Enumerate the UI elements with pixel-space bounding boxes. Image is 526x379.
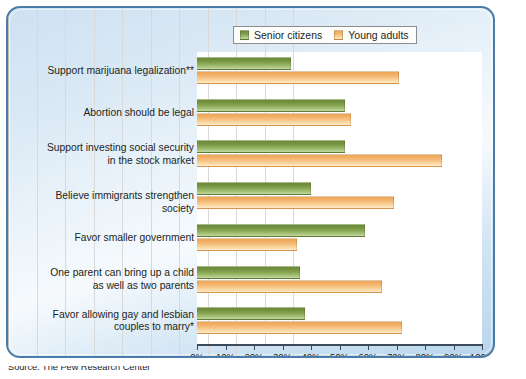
x-axis-tick-label: 10% [216,351,235,358]
figure-root: Senior citizens Young adults Support mar… [0,0,526,379]
bar-young-adults [197,154,442,167]
category-label: Believe immigrants strengthen society [22,190,194,215]
bar-young-adults [197,238,297,251]
bar-young-adults [197,196,394,209]
bar-young-adults [197,113,351,126]
category-labels: Support marijuana legalization**Abortion… [22,52,194,344]
bar-young-adults [197,280,382,293]
x-axis-tick [311,345,312,350]
x-axis-tick [397,345,398,350]
x-axis-tick-label: 70% [387,351,406,358]
x-axis-tick [283,345,284,350]
category-label-line: One parent can bring up a child [22,267,194,279]
figure-source-caption-text: Source: The Pew Research Center [8,366,488,372]
grid-line [8,8,9,356]
bar-group [197,52,482,94]
bar-senior-citizens [197,182,311,195]
x-axis-tick-label: 40% [301,351,320,358]
bar-group [197,135,482,177]
x-axis-tick-labels: 0%10%20%30%40%50%60%70%80%90%100% [8,351,495,358]
bar-group [197,177,482,219]
bar-group [197,261,482,303]
bar-group [197,302,482,344]
x-axis-tick-label: 20% [244,351,263,358]
legend-entry-senior-citizens: Senior citizens [240,30,322,41]
bar-young-adults [197,321,402,334]
category-label: Favor allowing gay and lesbiancouples to… [22,309,194,334]
category-label: Support investing social securityin the … [22,142,194,167]
figure-source-caption: Source: The Pew Research Center [8,366,488,379]
x-axis-tick [197,345,198,350]
chart-legend: Senior citizens Young adults [233,26,417,44]
x-axis-tick [454,345,455,350]
x-axis-tick-label: 0% [190,351,204,358]
x-axis-tick-label: 90% [444,351,463,358]
legend-entry-young-adults: Young adults [334,30,408,41]
legend-label-senior-citizens: Senior citizens [254,30,322,41]
x-axis-tick [425,345,426,350]
category-label: Favor smaller government [22,232,194,244]
bar-senior-citizens [197,57,291,70]
x-axis-tick-label: 100% [470,351,494,358]
x-axis-tick [254,345,255,350]
category-label-line: Favor smaller government [22,232,194,244]
category-label-line: couples to marry* [22,321,194,333]
legend-label-young-adults: Young adults [348,30,408,41]
bar-senior-citizens [197,266,300,279]
green-square-swatch-icon [240,30,249,40]
bar-senior-citizens [197,224,365,237]
bar-senior-citizens [197,307,305,320]
x-axis-tick-label: 60% [358,351,377,358]
bar-senior-citizens [197,140,345,153]
x-axis-tick [368,345,369,350]
category-label: Support marijuana legalization** [22,65,194,77]
x-axis-tick-label: 50% [330,351,349,358]
category-label-line: Abortion should be legal [22,107,194,119]
category-label-line: Support investing social security [22,142,194,154]
x-axis-tick [482,345,483,350]
category-label-line: Believe immigrants strengthen society [22,190,194,215]
bar-rows [197,52,482,344]
bar-senior-citizens [197,99,345,112]
category-label-line: as well as two parents [22,280,194,292]
bar-group [197,219,482,261]
category-label-line: Favor allowing gay and lesbian [22,309,194,321]
category-label-line: Support marijuana legalization** [22,65,194,77]
x-axis-tick-label: 30% [273,351,292,358]
x-axis-tick [340,345,341,350]
bar-young-adults [197,71,399,84]
x-axis-tick [226,345,227,350]
bar-group [197,94,482,136]
orange-square-swatch-icon [334,30,343,40]
category-label-line: in the stock market [22,155,194,167]
chart-panel: Senior citizens Young adults Support mar… [6,6,495,358]
x-axis-tick-label: 80% [415,351,434,358]
x-axis-ticks [197,345,483,350]
category-label: One parent can bring up a childas well a… [22,267,194,292]
category-label: Abortion should be legal [22,107,194,119]
